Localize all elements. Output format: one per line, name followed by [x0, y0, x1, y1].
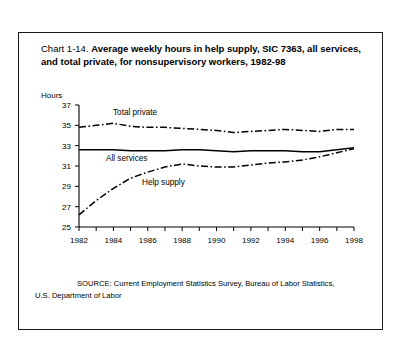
plot-area: Hours 25272931333537 1982198419861988199…	[19, 91, 384, 291]
x-axis-tick-label: 1992	[242, 236, 260, 245]
series-label-all-services: All services	[106, 154, 147, 163]
y-axis-tick-label: 25	[62, 223, 71, 232]
source-note: SOURCE: Current Employment Statistics Su…	[35, 278, 371, 301]
y-axis-tick-label: 29	[62, 182, 71, 191]
source-note-line-1: SOURCE: Current Employment Statistics Su…	[35, 278, 371, 290]
chart-svg: 25272931333537 1982198419861988199019921…	[19, 91, 384, 291]
x-axis-ticks	[79, 227, 354, 231]
x-axis-tick-label: 1982	[70, 236, 88, 245]
x-axis-tick-label: 1994	[276, 236, 294, 245]
y-axis-tick-label: 37	[62, 101, 71, 110]
x-axis-tick-label: 1986	[139, 236, 157, 245]
data-series-group	[79, 123, 354, 215]
series-line-all-services	[79, 148, 354, 152]
x-axis: 198219841986198819901992199419961998	[70, 227, 363, 245]
x-axis-tick-label: 1984	[104, 236, 122, 245]
y-axis-tick-label: 27	[62, 203, 71, 212]
y-axis-tick-label: 33	[62, 142, 71, 151]
x-axis-tick-label: 1998	[345, 236, 363, 245]
chart-title: Chart 1-14. Average weekly hours in help…	[41, 43, 361, 68]
figure-frame: Chart 1-14. Average weekly hours in help…	[18, 32, 383, 330]
y-axis: 25272931333537	[62, 101, 79, 232]
chart-title-prefix: Chart 1-14.	[41, 43, 91, 54]
x-axis-tick-labels: 198219841986198819901992199419961998	[70, 236, 363, 245]
y-axis-ticks	[75, 105, 79, 227]
x-axis-tick-label: 1990	[208, 236, 226, 245]
y-axis-tick-label: 31	[62, 162, 71, 171]
y-axis-tick-label: 35	[62, 121, 71, 130]
y-axis-tick-labels: 25272931333537	[62, 101, 71, 232]
series-label-help-supply: Help supply	[142, 178, 186, 187]
series-label-total-private: Total private	[113, 108, 158, 117]
x-axis-tick-label: 1988	[173, 236, 191, 245]
series-line-total-private	[79, 123, 354, 132]
source-note-line-2: U.S. Department of Labor	[35, 290, 371, 302]
x-axis-tick-label: 1996	[311, 236, 329, 245]
